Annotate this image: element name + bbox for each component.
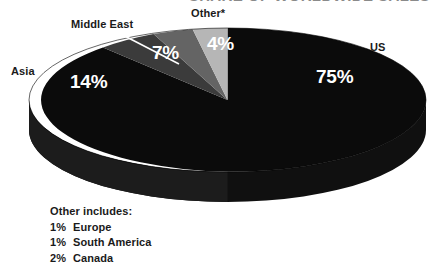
footnote-row: 1%South America [50, 235, 152, 251]
slice-value-us: 75% [316, 66, 353, 88]
footnote-percent: 1% [50, 235, 73, 251]
slice-label-middle-east: Middle East [71, 18, 133, 30]
footnote-name: South America [73, 236, 152, 248]
chart-title: SHARE OF WORLDWIDE SALES [189, 0, 430, 4]
slice-value-asia: 14% [70, 71, 107, 93]
slice-value-other: 4% [207, 33, 234, 55]
slice-label-us: US [370, 41, 385, 53]
footnote-name: Europe [73, 221, 112, 233]
footnote-block: Other includes: 1%Europe 1%South America… [50, 204, 152, 266]
footnote-percent: 2% [50, 251, 73, 267]
slice-value-middle-east: 7% [152, 42, 179, 64]
slice-label-other: Other* [191, 7, 225, 19]
pie-chart-figure: SHARE OF WORLDWIDE SALES [0, 0, 438, 267]
footnote-title: Other includes: [50, 204, 152, 220]
footnote-row: 2%Canada [50, 251, 152, 267]
footnote-row: 1%Europe [50, 220, 152, 236]
footnote-percent: 1% [50, 220, 73, 236]
slice-label-asia: Asia [11, 65, 35, 77]
footnote-name: Canada [73, 252, 113, 264]
